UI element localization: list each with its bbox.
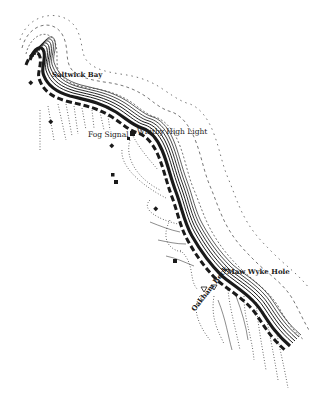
building-symbols [28, 80, 177, 263]
map-drawing [0, 0, 309, 401]
inland-dotted-lines [40, 104, 288, 388]
cliff-bands [30, 37, 301, 346]
coastline-map: Saltwick Bay Whitby High Light Fog Signa… [0, 0, 309, 401]
label-maw-wyke-hole: Maw Wyke Hole [227, 268, 290, 275]
label-whitby-high-light: Whitby High Light [137, 128, 207, 136]
label-saltwick-bay: Saltwick Bay [52, 71, 102, 78]
foreshore-rocks [26, 53, 286, 351]
label-fog-signal: Fog Signal [88, 131, 129, 139]
